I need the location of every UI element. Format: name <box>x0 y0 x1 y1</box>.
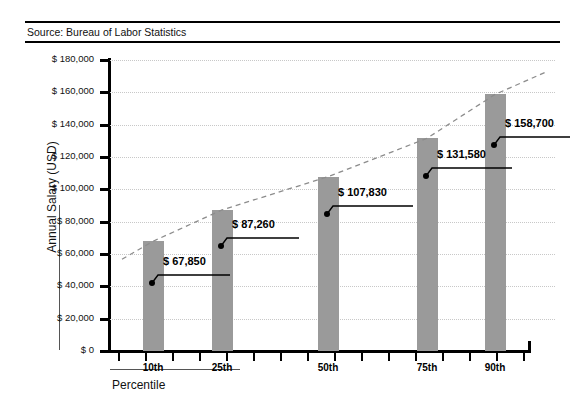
y-axis-tick <box>100 91 110 94</box>
x-axis-minor-tick <box>469 353 471 361</box>
chart-page: Source: Bureau of Labor Statistics Annua… <box>0 0 574 416</box>
bar-value-label: $ 158,700 <box>505 117 554 129</box>
x-axis-tick-label: 50th <box>298 362 358 373</box>
bar[interactable] <box>212 210 233 351</box>
y-axis-tick-label: $ 160,000 <box>30 86 94 96</box>
y-axis-title-rule <box>59 205 60 350</box>
y-axis-tick-label: $ 20,000 <box>30 313 94 323</box>
y-axis-tick-label: $ 100,000 <box>30 183 94 193</box>
value-label-leader-line <box>327 206 413 214</box>
bar-value-label: $ 107,830 <box>338 186 387 198</box>
x-axis-minor-tick <box>172 353 174 361</box>
y-axis-tick-label: $ 40,000 <box>30 280 94 290</box>
x-axis-minor-tick <box>415 353 417 361</box>
y-axis-line <box>108 58 111 353</box>
x-axis-minor-tick <box>307 353 309 361</box>
y-axis-tick <box>100 285 110 288</box>
y-axis-tick <box>100 318 110 321</box>
bar[interactable] <box>417 138 438 351</box>
bar[interactable] <box>485 94 506 351</box>
x-axis-minor-tick <box>253 353 255 361</box>
source-caption: Source: Bureau of Labor Statistics <box>27 24 186 40</box>
y-axis-tick-label: $ 0 <box>30 345 94 355</box>
y-axis-tick-label: $ 80,000 <box>30 216 94 226</box>
y-axis-tick-label: $ 60,000 <box>30 248 94 258</box>
bar-value-label: $ 131,580 <box>437 148 486 160</box>
x-axis-minor-tick <box>199 353 201 361</box>
x-axis-minor-tick <box>442 353 444 361</box>
gridline <box>110 92 555 93</box>
y-axis-tick <box>100 253 110 256</box>
y-axis-tick-label: $ 120,000 <box>30 151 94 161</box>
x-axis-end-tick <box>528 341 531 353</box>
bar-value-label: $ 67,850 <box>163 255 206 267</box>
x-axis-minor-tick <box>523 353 525 361</box>
y-axis-tick-label: $ 180,000 <box>30 54 94 64</box>
header-rule-top <box>25 21 560 23</box>
bar[interactable] <box>143 241 164 351</box>
y-axis-tick <box>100 156 110 159</box>
x-axis-minor-tick <box>280 353 282 361</box>
x-axis-minor-tick <box>496 353 498 361</box>
x-axis-minor-tick <box>145 353 147 361</box>
bar-value-label: $ 87,260 <box>232 218 275 230</box>
y-axis-tick <box>100 188 110 191</box>
x-axis-minor-tick <box>118 353 120 361</box>
x-axis-minor-tick <box>388 353 390 361</box>
x-axis-minor-tick <box>361 353 363 361</box>
y-axis-tick <box>100 124 110 127</box>
x-axis-tick-label: 75th <box>397 362 457 373</box>
value-label-leader-line <box>221 238 299 246</box>
x-axis-tick-label: 10th <box>123 362 183 373</box>
y-axis-tick <box>100 350 110 353</box>
y-axis-tick <box>100 59 110 62</box>
gridline <box>110 60 555 61</box>
y-axis-tick <box>100 221 110 224</box>
bar[interactable] <box>318 177 339 351</box>
x-axis-minor-tick <box>334 353 336 361</box>
x-axis-title: Percentile <box>112 378 165 392</box>
x-axis-tick-label: 25th <box>192 362 252 373</box>
y-axis-tick-label: $ 140,000 <box>30 119 94 129</box>
x-axis-tick-label: 90th <box>465 362 525 373</box>
header-rule-bottom <box>25 41 560 43</box>
x-axis-minor-tick <box>226 353 228 361</box>
